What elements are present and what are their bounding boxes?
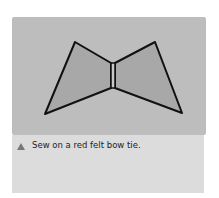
bow-tie-knot	[111, 63, 115, 88]
bow-tie-left-wing	[45, 42, 111, 114]
caption-text: Sew on a red felt bow tie.	[32, 140, 141, 150]
triangle-icon	[17, 143, 25, 150]
bow-tie-right-wing	[115, 42, 182, 113]
